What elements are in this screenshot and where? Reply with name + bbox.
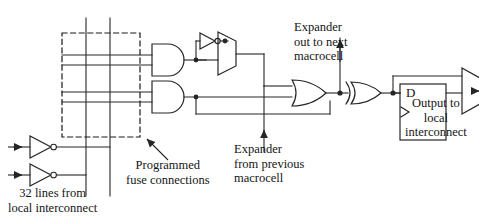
input-inverter-b-bubble bbox=[51, 172, 57, 178]
expander-mux bbox=[196, 32, 292, 86]
vertical-interconnect-lines bbox=[86, 18, 110, 196]
fuse-callout-arrow bbox=[147, 139, 168, 160]
horizontal-input-lines bbox=[62, 55, 152, 102]
expander-inverter bbox=[196, 33, 228, 60]
flip-flop-d-label: D bbox=[406, 86, 415, 101]
and-gate-lower bbox=[152, 81, 330, 114]
xor-gate-body bbox=[351, 82, 381, 104]
junction-dot-inverter-out bbox=[223, 39, 228, 44]
input-inverter-a-bubble bbox=[51, 144, 57, 150]
input-lines-label: 32 lines from local interconnect bbox=[8, 186, 97, 215]
left-input-inverters bbox=[14, 136, 110, 186]
input-inverter-b-triangle bbox=[30, 164, 51, 186]
expander-in-label: Expander from previous macrocell bbox=[234, 142, 304, 186]
inverter-triangle bbox=[200, 33, 215, 49]
expander-mux-body bbox=[218, 32, 236, 75]
expander-out-label: Expander out to next macrocell bbox=[294, 20, 347, 64]
xor-gate bbox=[346, 82, 400, 104]
input-inverter-a-triangle bbox=[30, 136, 51, 158]
programmed-fuse-label: Programmed fuse connections bbox=[126, 158, 210, 187]
programmed-fuse-array-box bbox=[62, 33, 140, 137]
or-gate-body bbox=[292, 80, 326, 106]
output-label: Output to local interconnect bbox=[405, 96, 467, 140]
circuit-diagram: Expander out to next macrocell Expander … bbox=[0, 0, 479, 223]
